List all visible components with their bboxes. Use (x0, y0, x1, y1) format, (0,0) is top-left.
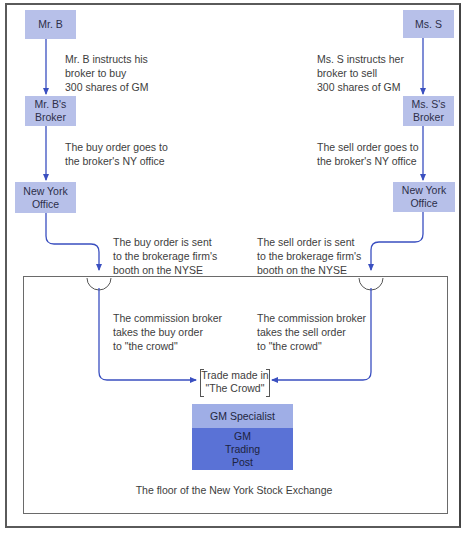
floor-caption: The floor of the New York Stock Exchange (0, 483, 468, 497)
gm-specialist-label: GM Specialist (210, 410, 275, 422)
node-mr-b-label: Mr. B (38, 18, 63, 31)
sell-step4-label: The commission broker takes the sell ord… (257, 311, 366, 353)
node-ny-office-seller: New York Office (393, 182, 455, 212)
trade-line1: Trade made in (201, 369, 269, 382)
node-mr-b: Mr. B (25, 10, 76, 39)
node-ms-s-broker-line1: Ms. S's (411, 98, 445, 111)
sell-step1-label: Ms. S instructs her broker to sell 300 s… (317, 52, 404, 94)
node-ny-office-seller-line2: Office (410, 197, 437, 210)
sell-step2-label: The sell order goes to the broker's NY o… (317, 140, 419, 168)
gm-specialist-box: GM Specialist (192, 404, 293, 428)
node-ny-office-buyer-line1: New York (23, 185, 67, 198)
buy-step3-label: The buy order is sent to the brokerage f… (113, 235, 217, 277)
trading-post-line3: Post (225, 456, 260, 469)
trade-line2: "The Crowd" (201, 382, 269, 395)
node-ms-s-broker-line2: Broker (413, 111, 444, 124)
node-ny-office-seller-line1: New York (402, 184, 446, 197)
node-ny-office-buyer: New York Office (15, 182, 76, 213)
node-ms-s-label: Ms. S (415, 18, 442, 31)
buy-step1-label: Mr. B instructs his broker to buy 300 sh… (65, 52, 148, 94)
trading-post-line1: GM (225, 430, 260, 443)
trading-post-line2: Trading (225, 443, 260, 456)
node-ms-s: Ms. S (403, 10, 454, 38)
node-mr-b-broker: Mr. B's Broker (25, 96, 76, 126)
sell-step3-label: The sell order is sent to the brokerage … (257, 235, 361, 277)
gm-trading-post-box: GM Trading Post (192, 428, 293, 470)
node-ms-s-broker: Ms. S's Broker (403, 96, 454, 126)
trade-crowd-label: Trade made in "The Crowd" (200, 369, 270, 397)
node-ny-office-buyer-line2: Office (32, 198, 59, 211)
node-mr-b-broker-line1: Mr. B's (35, 98, 67, 111)
node-mr-b-broker-line2: Broker (35, 111, 66, 124)
buy-step2-label: The buy order goes to the broker's NY of… (65, 140, 168, 168)
buy-step4-label: The commission broker takes the buy orde… (113, 311, 222, 353)
